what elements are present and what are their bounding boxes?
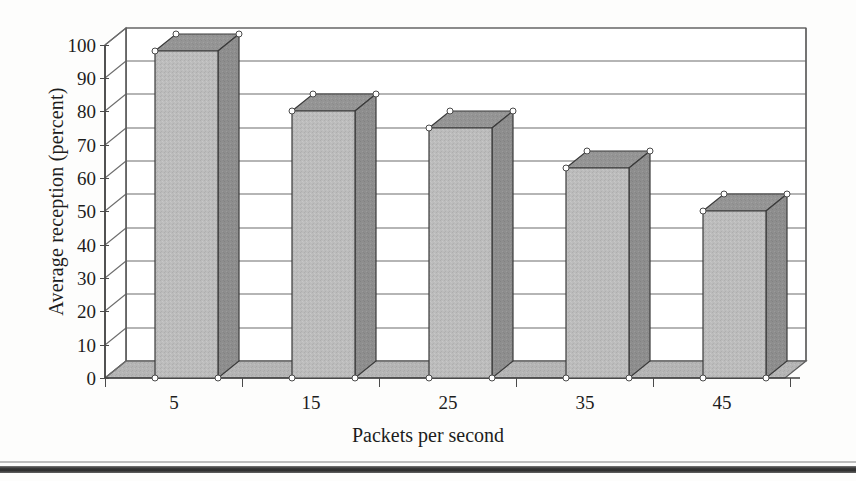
- x-tick-mark-3: [516, 378, 517, 387]
- x-tick-label-5: 5: [134, 392, 214, 414]
- x-tick-mark-2: [379, 378, 380, 387]
- x-tick-mark-4: [653, 378, 654, 387]
- y-tick-label-70: 70: [50, 136, 96, 155]
- bar-5: [700, 191, 790, 381]
- bar-2: [289, 91, 379, 381]
- x-tick-label-25: 25: [408, 392, 488, 414]
- y-tick-mark-20: [100, 311, 109, 312]
- x-tick-label-45: 45: [682, 392, 762, 414]
- y-tick-label-10: 10: [50, 336, 96, 355]
- x-tick-label-35: 35: [545, 392, 625, 414]
- y-tick-mark-10: [100, 345, 109, 346]
- y-tick-mark-80: [100, 111, 109, 112]
- y-tick-mark-40: [100, 245, 109, 246]
- y-tick-label-100: 100: [50, 36, 96, 55]
- y-tick-label-60: 60: [50, 169, 96, 188]
- y-tick-label-40: 40: [50, 236, 96, 255]
- x-tick-label-15: 15: [271, 392, 351, 414]
- y-tick-label-20: 20: [50, 302, 96, 321]
- y-tick-mark-100: [100, 45, 109, 46]
- bar-1: [152, 31, 242, 381]
- y-tick-mark-70: [100, 145, 109, 146]
- y-tick-label-90: 90: [50, 69, 96, 88]
- y-tick-mark-50: [100, 211, 109, 212]
- x-tick-mark-5: [790, 378, 791, 387]
- bar-3: [426, 108, 516, 381]
- x-tick-mark-1: [242, 378, 243, 387]
- y-tick-label-0: 0: [50, 369, 96, 388]
- bar-4: [563, 148, 653, 381]
- y-tick-mark-60: [100, 178, 109, 179]
- page-separator-highlight: [0, 461, 856, 463]
- bar-chart-figure: Average reception (percent) Packets per …: [0, 0, 856, 481]
- y-tick-label-30: 30: [50, 269, 96, 288]
- y-tick-mark-30: [100, 278, 109, 279]
- x-tick-mark-0: [105, 378, 106, 387]
- page-separator-rule: [0, 466, 856, 473]
- y-tick-label-80: 80: [50, 102, 96, 121]
- y-tick-mark-90: [100, 78, 109, 79]
- y-tick-label-50: 50: [50, 202, 96, 221]
